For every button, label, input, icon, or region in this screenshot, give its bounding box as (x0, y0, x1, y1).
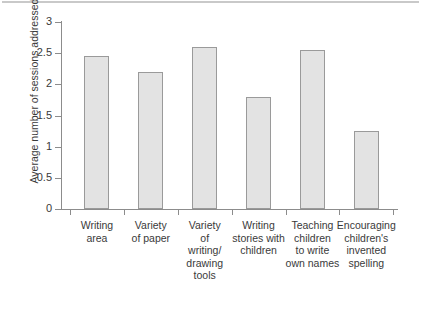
x-axis-tick (232, 210, 233, 215)
bar (84, 56, 109, 209)
y-axis-tick-label: 0.5 (22, 172, 52, 183)
bar (138, 72, 163, 209)
x-axis-label-line: invented (333, 244, 399, 257)
x-axis-label-line: drawing (172, 257, 238, 270)
x-axis-line (61, 209, 398, 210)
x-axis-tick (70, 210, 71, 215)
y-axis-tick-label: 1.5 (22, 110, 52, 121)
bar (354, 131, 379, 209)
x-axis-label-line: children's (333, 232, 399, 245)
x-axis-label-line: Encouraging (333, 219, 399, 232)
y-axis-title: Average number of sessions addressed (29, 4, 40, 184)
plot-area (61, 22, 398, 209)
x-axis-tick (286, 210, 287, 215)
x-axis-tick (178, 210, 179, 215)
bar (192, 47, 217, 209)
x-axis-tick (124, 210, 125, 215)
y-axis-tick-label: 0 (22, 203, 52, 214)
y-axis-tick-label: 2 (22, 78, 52, 89)
y-axis-tick-label: 1 (22, 141, 52, 152)
x-axis-label: Encouragingchildren'sinventedspelling (333, 219, 399, 269)
bar (300, 50, 325, 209)
y-axis-tick (55, 209, 61, 210)
scan-artifact-line (2, 1, 419, 3)
x-axis-tick (339, 210, 340, 215)
y-axis-tick-label: 2.5 (22, 47, 52, 58)
y-axis-tick-label: 3 (22, 16, 52, 27)
bar-chart-figure: Average number of sessions addressed 00.… (0, 0, 421, 310)
bar (246, 97, 271, 209)
x-axis-tick (393, 210, 394, 215)
x-axis-label-line: tools (172, 269, 238, 282)
x-axis-label-line: spelling (333, 257, 399, 270)
